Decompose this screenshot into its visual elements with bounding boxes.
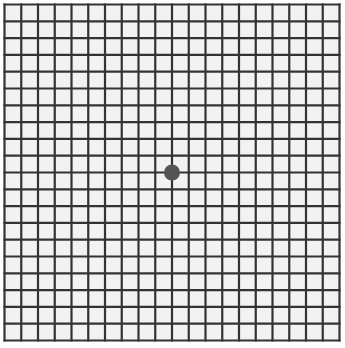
amsler-grid <box>0 0 345 348</box>
fixation-dot <box>164 165 180 181</box>
